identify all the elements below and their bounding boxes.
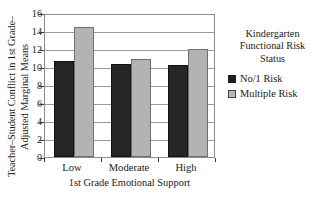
bars-layer [45,15,214,157]
legend-item-multiple-risk[interactable]: Multiple Risk [228,88,325,100]
legend-items: No/1 Risk Multiple Risk [224,73,325,100]
bar-high-no-1-risk [168,65,188,157]
legend-title-line-3: Status [224,53,321,65]
legend-title-line-2: Functional Risk [224,40,321,52]
legend-item-no1-risk[interactable]: No/1 Risk [228,73,325,85]
y-axis-title-line-1: Teacher–Student Conflict in 1st Grade– [6,17,19,177]
x-axis-title: 1st Grade Emotional Support [44,177,215,189]
legend-item-label: No/1 Risk [240,73,282,85]
plot-area [44,14,215,158]
legend-swatch-dark-icon [228,75,236,83]
legend-title: Kindergarten Functional Risk Status [224,28,321,65]
legend: Kindergarten Functional Risk Status No/1… [224,28,325,103]
bar-moderate-no-1-risk [111,64,131,157]
legend-swatch-light-icon [228,90,236,98]
bar-high-multiple-risk [188,49,208,157]
bar-chart-figure: Teacher–Student Conflict in 1st Grade– A… [0,0,325,201]
bar-moderate-multiple-risk [131,59,151,157]
legend-item-label: Multiple Risk [240,88,297,100]
x-tick-label-high: High [151,162,221,174]
bar-low-no-1-risk [54,61,74,157]
bar-low-multiple-risk [74,27,94,158]
legend-title-line-1: Kindergarten [224,28,321,40]
